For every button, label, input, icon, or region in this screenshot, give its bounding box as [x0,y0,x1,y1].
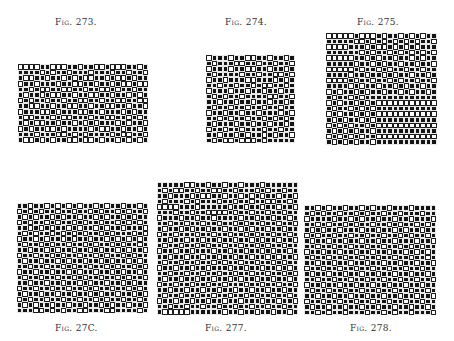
empty-square [245,138,251,144]
weave-pattern-grid [326,33,437,145]
filled-square [143,64,148,70]
filled-square [55,308,60,314]
filled-square [143,258,148,264]
filled-square [431,44,437,50]
figure-caption: Fig. 277. [205,323,247,333]
filled-square [44,308,49,314]
filled-square [359,310,365,316]
filled-square [61,137,66,143]
filled-square [431,128,437,134]
filled-square [425,310,431,316]
filled-square [143,203,148,209]
filled-square [337,139,343,145]
filled-square [431,33,437,39]
empty-square [77,308,82,314]
filled-square [34,137,39,143]
weave-pattern-grid [157,182,298,315]
filled-square [143,269,148,275]
filled-square [348,139,354,145]
weave-pattern-grid [206,55,295,143]
filled-square [431,72,437,78]
filled-square [77,302,82,308]
filled-square [143,137,148,143]
weave-pattern-grid [17,203,148,313]
filled-square [431,304,437,310]
filled-square [143,308,148,314]
filled-square [293,309,298,315]
filled-square [326,139,332,145]
empty-square [173,309,178,315]
weave-pattern-grid [18,64,148,143]
weave-pattern-grid [304,205,436,315]
filled-square [431,271,437,277]
filled-square [143,92,148,98]
figure-caption: Fig. 275. [357,17,399,27]
empty-square [431,310,437,316]
filled-square [431,117,437,123]
figure-caption: Fig. 273. [55,17,97,27]
filled-square [206,138,212,144]
filled-square [289,138,295,144]
figure-caption: Fig. 278. [350,323,392,333]
filled-square [256,138,262,144]
filled-square [104,302,109,308]
empty-square [143,225,148,231]
filled-square [293,265,298,271]
filled-square [337,310,343,316]
filled-square [293,215,298,221]
filled-square [217,138,223,144]
empty-square [104,308,109,314]
filled-square [289,55,295,61]
filled-square [403,310,409,316]
filled-square [293,276,298,282]
filled-square [143,126,148,132]
figure-caption: Fig. 274. [225,17,267,27]
filled-square [431,139,437,145]
figure-caption: Fig. 27C. [55,323,98,333]
filled-square [289,66,295,72]
filled-square [249,309,254,315]
filled-square [289,88,295,94]
